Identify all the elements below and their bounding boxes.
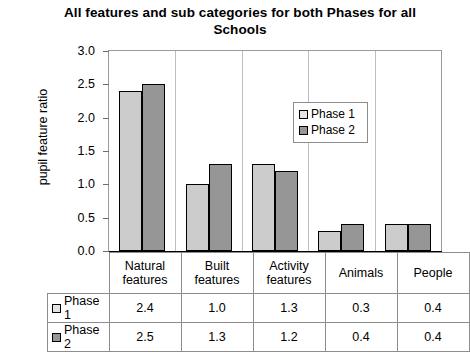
chart-data-table: Natural features Built features Activity… (47, 252, 470, 352)
legend-swatch-phase-1-icon (299, 110, 308, 119)
bar-phase-1-natural-features (119, 91, 142, 251)
legend-label-phase-1: Phase 1 (311, 106, 355, 122)
table-row-label-phase-2: Phase 2 (48, 323, 110, 352)
legend-item-phase-1: Phase 1 (299, 106, 363, 122)
bar-phase-2-people (408, 224, 431, 251)
y-axis-title: pupil feature ratio (36, 47, 50, 227)
table-header-cell: Activity features (253, 253, 325, 294)
table-cell: 0.4 (397, 294, 469, 323)
y-axis-tick-label: 1.5 (43, 145, 95, 157)
table-row-label-text: Phase 1 (64, 294, 109, 322)
table-cell: 1.2 (253, 323, 325, 352)
category-separator (175, 51, 176, 251)
table-swatch-phase-2-icon (52, 333, 61, 342)
category-separator (375, 51, 376, 251)
table-header-cell: Natural features (109, 253, 181, 294)
y-axis-tick-label: 0.5 (43, 212, 95, 224)
table-cell: 0.4 (397, 323, 469, 352)
bar-phase-1-animals (318, 231, 341, 251)
y-axis-tick-mark (103, 184, 109, 185)
bar-phase-2-activity-features (275, 171, 298, 251)
table-cell: 0.4 (325, 323, 397, 352)
y-axis-tick-mark (103, 118, 109, 119)
chart-title: All features and sub categories for both… (40, 4, 440, 38)
chart-legend: Phase 1 Phase 2 (293, 102, 368, 143)
y-axis-tick-label: 2.5 (43, 78, 95, 90)
y-axis-tick-label: 1.0 (43, 178, 95, 190)
bar-phase-1-built-features (186, 184, 209, 251)
y-axis-tick-label: 2.0 (43, 112, 95, 124)
table-row: Phase 2 2.5 1.3 1.2 0.4 0.4 (48, 323, 470, 352)
y-axis-tick-mark (103, 218, 109, 219)
table-cell: 2.4 (109, 294, 181, 323)
category-separator (242, 51, 243, 251)
y-axis-tick-mark (103, 51, 109, 52)
table-header-cell: People (397, 253, 469, 294)
bar-phase-2-animals (341, 224, 364, 251)
table-swatch-phase-1-icon (52, 304, 61, 313)
table-cell: 1.0 (181, 294, 253, 323)
table-cell: 1.3 (181, 323, 253, 352)
category-separator (308, 51, 309, 251)
bar-phase-2-natural-features (142, 84, 165, 251)
legend-label-phase-2: Phase 2 (311, 122, 355, 138)
bar-phase-2-built-features (209, 164, 232, 251)
table-cell: 2.5 (109, 323, 181, 352)
legend-swatch-phase-2-icon (299, 126, 308, 135)
bar-phase-1-people (385, 224, 408, 251)
table-header-cell: Animals (325, 253, 397, 294)
table-cell: 0.3 (325, 294, 397, 323)
table-row-label-phase-1: Phase 1 (48, 294, 110, 323)
bar-phase-1-activity-features (252, 164, 275, 251)
legend-item-phase-2: Phase 2 (299, 122, 363, 138)
table-corner-cell (48, 253, 110, 294)
table-row-label-text: Phase 2 (64, 323, 109, 351)
y-axis-tick-mark (103, 84, 109, 85)
y-axis-tick-mark (103, 151, 109, 152)
table-row: Phase 1 2.4 1.0 1.3 0.3 0.4 (48, 294, 470, 323)
plot-area: 0.00.51.01.52.02.53.0 (108, 50, 442, 252)
table-row-category-headers: Natural features Built features Activity… (48, 253, 470, 294)
table-header-cell: Built features (181, 253, 253, 294)
table-cell: 1.3 (253, 294, 325, 323)
y-axis-tick-label: 3.0 (43, 45, 95, 57)
